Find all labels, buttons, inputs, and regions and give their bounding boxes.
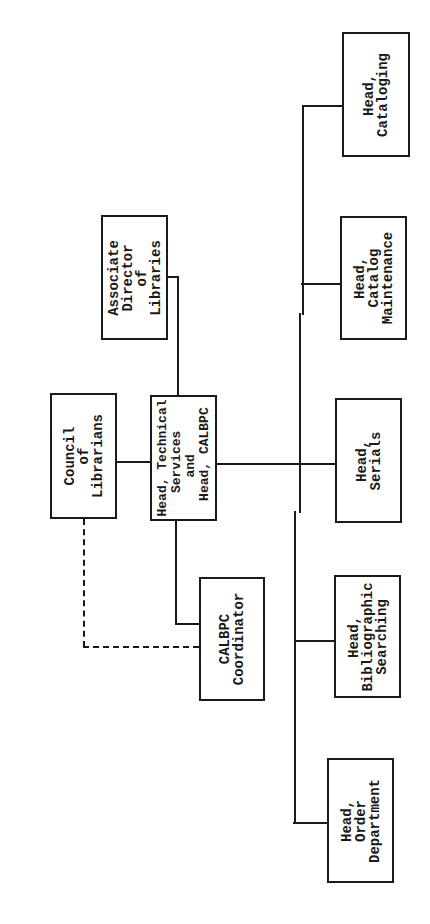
connector-catalog-maintenance: [301, 283, 341, 285]
connector-trunk-lower: [299, 313, 301, 513]
connector-council-coordinator-dashed-horizontal: [83, 646, 199, 648]
node-head-catalog-maintenance: Head, Catalog Maintenance: [340, 216, 407, 340]
connector-bibliographic: [296, 640, 335, 642]
connector-trunk-bottom: [294, 511, 296, 824]
connector-council-coordinator-dashed-vertical: [83, 519, 85, 647]
connector-assoc-director-vertical: [177, 276, 179, 396]
node-associate-director: Associate Director of Libraries: [101, 215, 168, 340]
node-label: Head, Technical Services and Head, CALBP…: [156, 399, 212, 516]
org-chart: Associate Director of Libraries Council …: [0, 0, 430, 924]
node-head-technical-services: Head, Technical Services and Head, CALBP…: [150, 395, 217, 521]
connector-council-head-ts: [116, 461, 151, 463]
node-label: CALBPC Coordinator: [218, 593, 246, 685]
connector-head-ts-coordinator-vertical: [175, 520, 177, 625]
node-calbpc-coordinator: CALBPC Coordinator: [199, 577, 265, 701]
connector-head-ts-trunk: [216, 463, 336, 465]
connector-order: [293, 822, 328, 824]
node-head-order-department: Head, Order Department: [327, 758, 394, 883]
node-head-cataloging: Head, Cataloging: [342, 32, 410, 157]
node-label: Head, Cataloging: [362, 52, 390, 136]
node-head-serials: Head, Serials: [335, 398, 402, 523]
node-label: Head, Catalog Maintenance: [353, 232, 395, 324]
node-council-of-librarians: Council of Librarians: [50, 393, 117, 519]
connector-head-ts-coordinator-horizontal: [175, 623, 200, 625]
node-label: Head, Order Department: [340, 778, 382, 862]
node-label: Associate Director of Libraries: [107, 240, 163, 316]
connector-cataloging: [303, 105, 343, 107]
node-label: Head, Serials: [355, 431, 383, 490]
node-head-bibliographic-searching: Head, Bibliographic Searching: [334, 575, 401, 698]
node-label: Head, Bibliographic Searching: [347, 582, 389, 691]
node-label: Council of Librarians: [63, 414, 105, 498]
